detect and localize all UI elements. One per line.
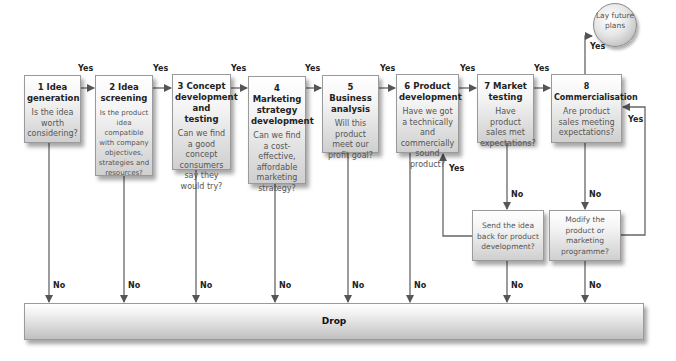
yes-label: Yes	[590, 42, 605, 51]
stage-title: 6 Product development	[399, 81, 456, 103]
yes-label: Yes	[231, 64, 246, 73]
stage-title: 7 Market testing	[480, 81, 531, 103]
no-label: No	[352, 281, 364, 290]
no-label: No	[200, 281, 212, 290]
stage-title: 1 Idea generation	[27, 82, 78, 104]
stage-5-box: 5 Business analysis Will this product me…	[322, 75, 379, 153]
stage-7-box: 7 Market testing Have product sales met …	[477, 74, 534, 143]
stage-title: 8 Commercialisation	[554, 81, 619, 103]
drop-label: Drop	[25, 316, 643, 326]
stage-title: 2 Idea screening	[98, 82, 150, 104]
no-label: No	[511, 281, 523, 290]
stage-title: 3 Concept development and testing	[175, 81, 228, 125]
yes-label: Yes	[305, 64, 320, 73]
stage-question: Is the product idea compatible with comp…	[98, 108, 150, 178]
drop-bar: Drop	[24, 303, 644, 340]
yes-label: Yes	[628, 115, 643, 124]
lay-future-plans-node: Lay future plans	[593, 3, 637, 47]
stage-6-box: 6 Product development Have we got a tech…	[396, 74, 459, 153]
stage-title: 5 Business analysis	[325, 82, 376, 115]
yes-label: Yes	[460, 64, 475, 73]
no-label: No	[589, 281, 601, 290]
send-back-question: Send the idea back for product developme…	[475, 221, 541, 253]
stage-question: Have product sales met expectations?	[480, 107, 531, 149]
stage-3-box: 3 Concept development and testing Can we…	[172, 74, 231, 170]
stage-title: 4 Marketing strategy development	[251, 83, 303, 127]
stage-4-box: 4 Marketing strategy development Can we …	[248, 76, 306, 184]
stage-question: Can we find a good concept consumers say…	[175, 129, 228, 192]
no-label: No	[53, 281, 65, 290]
stage-2-box: 2 Idea screening Is the product idea com…	[95, 75, 153, 176]
stage-question: Will this product meet our profit goal?	[325, 119, 376, 161]
stage-1-box: 1 Idea generation Is the idea worth cons…	[24, 75, 81, 143]
yes-label: Yes	[78, 64, 93, 73]
modify-box: Modify the product or marketing programm…	[549, 210, 621, 261]
stage-question: Are product sales meeting expectations?	[554, 107, 619, 139]
stage-question: Have we got a technically and commercial…	[399, 107, 456, 170]
stage-question: Can we find a cost-effective, affordable…	[251, 131, 303, 194]
modify-question: Modify the product or marketing programm…	[552, 215, 618, 257]
no-label: No	[128, 281, 140, 290]
stage-8-box: 8 Commercialisation Are product sales me…	[551, 74, 622, 143]
yes-label: Yes	[534, 64, 549, 73]
no-label: No	[589, 190, 601, 199]
yes-label: Yes	[380, 64, 395, 73]
yes-label: Yes	[449, 164, 464, 173]
no-label: No	[279, 281, 291, 290]
stage-question: Is the idea worth considering?	[27, 108, 78, 140]
no-label: No	[511, 190, 523, 199]
yes-label: Yes	[153, 64, 168, 73]
send-back-box: Send the idea back for product developme…	[472, 210, 544, 261]
no-label: No	[414, 281, 426, 290]
